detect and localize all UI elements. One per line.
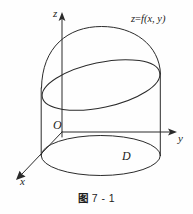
x-axis-label: x [20, 176, 25, 187]
x-axis [16, 132, 62, 180]
figure-caption-number: 7 - 1 [92, 192, 116, 204]
figure-container: z y x O D z=f(x, y) 图 7 - 1 [0, 0, 193, 214]
region-d-label: D [122, 150, 131, 162]
surface-equation-args: (x, y) [144, 13, 166, 24]
y-axis-label: y [178, 133, 183, 144]
top-surface-dome [42, 27, 161, 89]
y-axis [62, 129, 177, 136]
top-surface-rim-ellipse [38, 51, 165, 120]
figure-drawing [0, 0, 193, 214]
figure-caption: 图 7 - 1 [0, 190, 193, 205]
figure-caption-prefix: 图 [78, 192, 89, 204]
cylinder-walls [41, 74, 160, 156]
origin-label: O [53, 119, 62, 131]
surface-equation-label: z=f(x, y) [131, 14, 166, 25]
base-region-ellipse [41, 136, 160, 176]
z-axis-label: z [53, 8, 57, 19]
